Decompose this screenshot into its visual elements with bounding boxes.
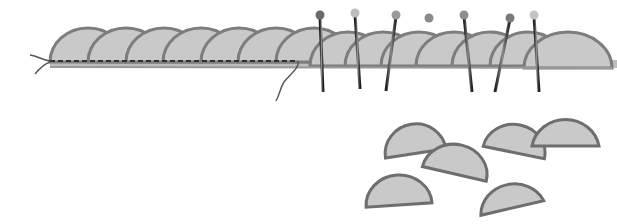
basting-stitch — [30, 55, 298, 101]
pin-head-icon — [392, 11, 401, 20]
strip-edge — [50, 67, 612, 68]
thread-tail-left-top — [30, 55, 50, 61]
loose-piece — [478, 181, 545, 215]
pin-head-icon — [316, 11, 325, 20]
pin-head-icon — [530, 11, 539, 20]
pin-head-icon — [425, 14, 434, 23]
pin-head-icon — [506, 14, 515, 23]
loose-piece — [532, 119, 599, 146]
loose-pieces — [365, 119, 599, 215]
sewing-illustration — [0, 0, 617, 224]
pin-head-icon — [460, 11, 469, 20]
loose-piece — [365, 174, 432, 207]
sewn-scallops — [50, 28, 352, 62]
scallop-strip — [50, 28, 617, 68]
pin-head-icon — [351, 9, 360, 18]
illustration-canvas — [0, 0, 617, 224]
thread-tail-left-bottom — [35, 62, 50, 74]
